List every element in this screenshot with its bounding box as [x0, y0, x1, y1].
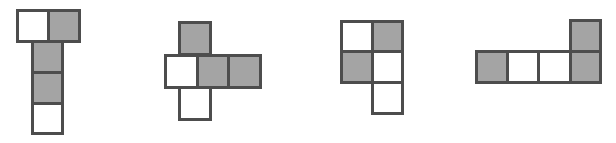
shaded-square	[569, 50, 602, 84]
cube-net-4	[0, 0, 616, 143]
unshaded-square	[537, 50, 572, 84]
shaded-square	[569, 19, 602, 53]
unshaded-square	[506, 50, 540, 84]
shaded-square	[475, 50, 509, 84]
